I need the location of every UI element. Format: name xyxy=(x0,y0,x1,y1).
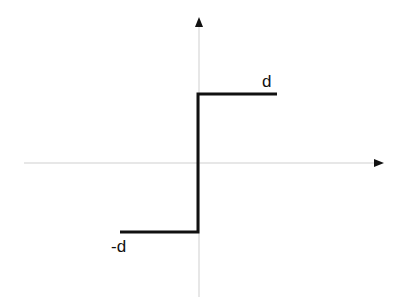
x-axis-arrowhead xyxy=(374,159,384,167)
y-axis-arrowhead xyxy=(195,17,203,27)
lower-level-label: -d xyxy=(111,237,126,256)
upper-level-label: d xyxy=(262,72,271,91)
step-function-diagram: d -d xyxy=(0,0,400,307)
